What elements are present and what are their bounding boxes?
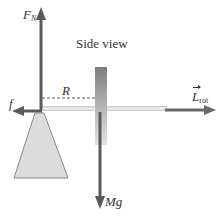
normal-force-symbol: F bbox=[23, 7, 31, 22]
normal-force-subscript: N bbox=[31, 14, 36, 23]
angular-momentum-arrow-icon bbox=[165, 105, 216, 115]
pivot-stand-icon bbox=[14, 113, 68, 178]
gyroscope-side-view-diagram: FN Side view R f Lrot Mg bbox=[0, 0, 223, 216]
angular-momentum-subscript: rot bbox=[199, 96, 208, 105]
normal-force-label: FN bbox=[23, 8, 36, 23]
angular-momentum-symbol: L bbox=[192, 90, 199, 103]
friction-label: f bbox=[9, 97, 13, 110]
normal-force-arrow-icon bbox=[36, 7, 46, 110]
weight-label: Mg bbox=[105, 195, 122, 208]
diagram-title: Side view bbox=[76, 37, 128, 50]
angular-momentum-label: Lrot bbox=[192, 90, 208, 105]
radius-label: R bbox=[62, 84, 70, 97]
